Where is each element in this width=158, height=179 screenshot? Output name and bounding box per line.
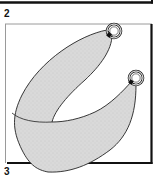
panel-2-frame: [0, 0, 153, 4]
ring-icon-lower: [128, 71, 143, 85]
sling-strap: [12, 30, 136, 172]
diagram-canvas: [0, 0, 158, 179]
panel-2-label: 2: [4, 9, 10, 19]
panel-3-label: 3: [4, 167, 10, 177]
